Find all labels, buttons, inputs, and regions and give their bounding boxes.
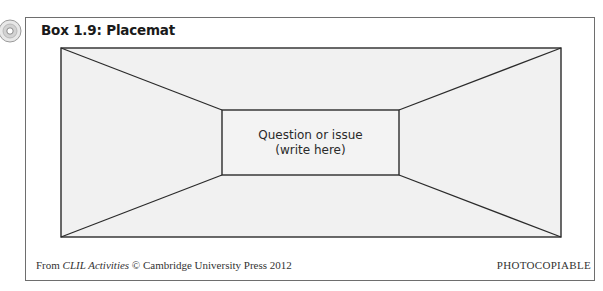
center-text-line2: (write here) [275, 143, 345, 158]
photocopiable-label: PHOTOCOPIABLE [497, 259, 591, 271]
placemat-center-text: Question or issue (write here) [222, 110, 399, 175]
source-prefix: From [36, 259, 63, 271]
source-credit: From CLIL Activities © Cambridge Univers… [36, 259, 292, 271]
center-text-line1: Question or issue [258, 128, 362, 143]
source-title: CLIL Activities [63, 259, 130, 271]
source-suffix: © Cambridge University Press 2012 [129, 259, 292, 271]
